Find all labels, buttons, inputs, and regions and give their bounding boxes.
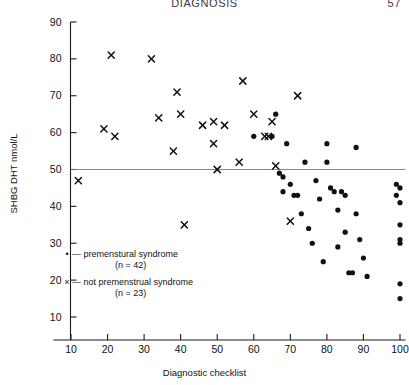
data-point-dot (317, 196, 322, 201)
y-tick-label: 40 (50, 200, 62, 212)
data-point-dot (397, 241, 402, 246)
data-point-cross (156, 115, 162, 121)
data-point-dot (321, 259, 326, 264)
data-point-dot (299, 211, 304, 216)
data-point-cross (273, 163, 279, 169)
figure-scatter-plot: DIAGNOSIS 57 102030405060708090102030405… (0, 0, 409, 385)
data-point-dot (251, 134, 256, 139)
data-point-cross (287, 218, 293, 224)
data-point-cross (210, 118, 216, 124)
data-point-cross (200, 122, 206, 128)
y-tick-label: 10 (50, 311, 62, 323)
x-tick-label: 100 (391, 343, 409, 355)
y-tick-label: 80 (50, 52, 62, 64)
legend-cross-icon: × (62, 277, 72, 288)
data-point-dot (284, 141, 289, 146)
data-point-cross (112, 133, 118, 139)
data-point-dot (343, 230, 348, 235)
y-axis-title: SHBG DHT nmol/L (8, 114, 19, 234)
legend-dot-icon: • (62, 249, 72, 260)
data-point-cross (101, 126, 107, 132)
data-point-dot (295, 193, 300, 198)
data-point-cross (170, 148, 176, 154)
series-premenstrual (251, 112, 402, 302)
legend-dash-2: — (72, 277, 81, 287)
data-point-dot (361, 255, 366, 260)
data-point-cross (210, 141, 216, 147)
data-point-dot (397, 185, 402, 190)
y-tick-label: 90 (50, 16, 62, 28)
data-point-dot (302, 160, 307, 165)
data-point-dot (324, 160, 329, 165)
data-point-cross (174, 89, 180, 95)
data-point-cross (178, 111, 184, 117)
data-point-dot (335, 207, 340, 212)
x-tick-label: 60 (248, 343, 260, 355)
data-point-cross (75, 177, 81, 183)
legend: •— premenstural syndrome (n = 42) ×— not… (62, 249, 193, 299)
data-point-dot (335, 244, 340, 249)
data-point-dot (354, 211, 359, 216)
x-tick-label: 10 (65, 343, 77, 355)
data-point-dot (280, 174, 285, 179)
legend-label-not-premenstrual: not premenstrual syndrome (84, 277, 194, 287)
x-axis-title: Diagnostic checklist (0, 367, 409, 378)
x-tick-label: 50 (211, 343, 223, 355)
legend-item-not-premenstrual: ×— not premenstrual syndrome (62, 277, 193, 288)
data-point-cross (251, 111, 257, 117)
y-tick-label: 50 (50, 163, 62, 175)
data-point-dot (397, 281, 402, 286)
x-tick-label: 90 (358, 343, 370, 355)
legend-count-not-premenstrual: (n = 23) (62, 288, 193, 299)
data-point-cross (108, 52, 114, 58)
data-point-dot (394, 182, 399, 187)
data-point-dot (328, 185, 333, 190)
data-point-cross (148, 56, 154, 62)
legend-label-premenstrual: premenstural syndrome (84, 249, 179, 259)
data-point-dot (343, 193, 348, 198)
data-point-dot (332, 189, 337, 194)
x-tick-label: 20 (102, 343, 114, 355)
data-point-dot (306, 226, 311, 231)
data-point-dot (313, 178, 318, 183)
data-point-dot (397, 296, 402, 301)
x-tick-label: 70 (284, 343, 296, 355)
x-tick-label: 30 (138, 343, 150, 355)
data-point-dot (324, 141, 329, 146)
data-point-dot (357, 237, 362, 242)
x-tick-label: 40 (175, 343, 187, 355)
series-not-premenstrual (75, 52, 301, 228)
data-point-dot (397, 222, 402, 227)
legend-count-premenstrual: (n = 42) (62, 260, 193, 271)
y-tick-label: 70 (50, 89, 62, 101)
data-point-cross (295, 93, 301, 99)
data-point-dot (280, 189, 285, 194)
data-point-dot (277, 171, 282, 176)
data-point-dot (310, 241, 315, 246)
data-point-cross (240, 78, 246, 84)
data-point-dot (365, 274, 370, 279)
data-point-dot (273, 112, 278, 117)
data-point-cross (269, 118, 275, 124)
data-point-dot (288, 182, 293, 187)
legend-item-premenstrual: •— premenstural syndrome (62, 249, 193, 260)
data-point-cross (221, 122, 227, 128)
legend-dash: — (72, 249, 81, 259)
y-tick-label: 20 (50, 274, 62, 286)
plot-canvas: 102030405060708090102030405060708090100 (0, 0, 409, 385)
data-point-dot (339, 189, 344, 194)
data-point-dot (394, 193, 399, 198)
data-point-dot (350, 270, 355, 275)
data-point-dot (354, 145, 359, 150)
data-point-dot (397, 200, 402, 205)
y-tick-label: 30 (50, 237, 62, 249)
y-tick-label: 60 (50, 126, 62, 138)
data-point-cross (181, 222, 187, 228)
x-tick-label: 80 (321, 343, 333, 355)
data-point-cross (236, 159, 242, 165)
axes-layer: 102030405060708090102030405060708090100 (50, 16, 409, 355)
